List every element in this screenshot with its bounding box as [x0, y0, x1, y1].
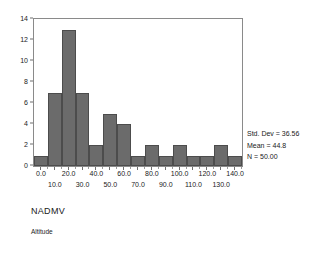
x-axis-tick-label: 130.0 — [212, 181, 230, 189]
y-axis-tick-mark — [30, 144, 33, 145]
y-axis: 02468101214 — [0, 18, 33, 167]
stat-mean: Mean = 44.8 — [247, 140, 331, 152]
y-axis-tick-label: 4 — [24, 120, 28, 127]
x-axis-minor-tick-mark — [172, 167, 173, 169]
x-axis-minor-tick-mark — [75, 167, 76, 169]
histogram-bar — [187, 156, 201, 167]
caption-primary: NADMV — [31, 206, 65, 216]
x-axis-minor-tick-mark — [241, 167, 242, 169]
x-axis-tick-label: 120.0 — [199, 170, 217, 178]
x-axis-minor-tick-mark — [199, 167, 200, 169]
x-axis-tick-label: 100.0 — [171, 170, 189, 178]
y-axis-tick-mark — [30, 18, 33, 19]
histogram-bar — [200, 156, 214, 167]
histogram-bar — [159, 156, 173, 167]
histogram-bar — [62, 30, 76, 167]
x-axis-minor-tick-mark — [213, 167, 214, 169]
x-axis-tick-label: 70.0 — [131, 181, 145, 189]
histogram-figure: 02468101214 0.020.040.060.080.0100.0120.… — [0, 0, 331, 254]
y-axis-tick-label: 2 — [24, 141, 28, 148]
x-axis-tick-label: 90.0 — [159, 181, 173, 189]
x-axis-tick-label: 0.0 — [36, 170, 46, 178]
x-axis-labels: 0.020.040.060.080.0100.0120.0140.010.030… — [0, 170, 331, 198]
x-axis-minor-tick-mark — [130, 167, 131, 169]
x-axis-tick-label: 60.0 — [117, 170, 131, 178]
x-axis-minor-tick-mark — [116, 167, 117, 169]
histogram-bar — [48, 93, 62, 167]
y-axis-tick-mark — [30, 81, 33, 82]
y-axis-tick-label: 6 — [24, 99, 28, 106]
histogram-bar — [214, 145, 228, 166]
x-axis-minor-tick-mark — [61, 167, 62, 169]
y-axis-tick-mark — [30, 60, 33, 61]
x-axis-tick-label: 50.0 — [103, 181, 117, 189]
x-axis-minor-tick-mark — [158, 167, 159, 169]
x-axis-minor-tick-mark — [186, 167, 187, 169]
y-axis-tick-label: 12 — [20, 36, 28, 43]
histogram-bar — [145, 145, 159, 166]
y-axis-tick-label: 8 — [24, 78, 28, 85]
y-axis-tick-mark — [30, 39, 33, 40]
x-axis-tick-label: 80.0 — [145, 170, 159, 178]
x-axis-minor-tick-mark — [47, 167, 48, 169]
caption-secondary: Altitude — [31, 228, 53, 236]
x-axis-minor-tick-mark — [102, 167, 103, 169]
stat-std-dev: Std. Dev = 36.56 — [247, 128, 331, 140]
x-axis-tick-label: 140.0 — [226, 170, 244, 178]
x-axis-tick-label: 40.0 — [90, 170, 104, 178]
histogram-bar — [76, 93, 90, 167]
statistics-annotation: Std. Dev = 36.56 Mean = 44.8 N = 50.00 — [247, 128, 331, 163]
y-axis-tick-mark — [30, 123, 33, 124]
histogram-bar — [117, 124, 131, 166]
x-axis-tick-label: 30.0 — [76, 181, 90, 189]
histogram-bar — [89, 145, 103, 166]
x-axis-tick-label: 20.0 — [62, 170, 76, 178]
y-axis-tick-label: 10 — [20, 57, 28, 64]
x-axis-minor-tick-mark — [88, 167, 89, 169]
x-axis-minor-tick-mark — [144, 167, 145, 169]
y-axis-tick-mark — [30, 165, 33, 166]
x-axis-minor-tick-mark — [227, 167, 228, 169]
x-axis-tick-label: 110.0 — [185, 181, 202, 189]
y-axis-tick-label: 0 — [24, 162, 28, 169]
histogram-bar — [131, 156, 145, 167]
histogram-bar — [173, 145, 187, 166]
x-axis-tick-label: 10.0 — [48, 181, 62, 189]
histogram-bar — [228, 156, 242, 167]
histogram-bar — [34, 156, 48, 167]
y-axis-tick-label: 14 — [20, 15, 28, 22]
histogram-bar — [103, 114, 117, 167]
stat-n: N = 50.00 — [247, 151, 331, 163]
histogram-bars — [34, 19, 242, 166]
y-axis-tick-mark — [30, 102, 33, 103]
